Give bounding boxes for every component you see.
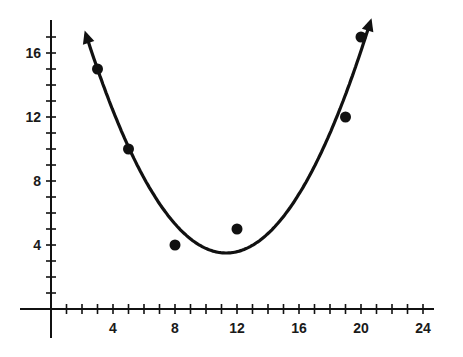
x-tick-label: 16 bbox=[291, 320, 307, 336]
data-point bbox=[232, 224, 243, 235]
y-tick-label: 8 bbox=[33, 173, 41, 189]
data-point bbox=[356, 32, 367, 43]
x-tick-label: 24 bbox=[415, 320, 431, 336]
data-point bbox=[92, 64, 103, 75]
data-point bbox=[340, 112, 351, 123]
tick-labels: 4812162024481216 bbox=[25, 45, 431, 336]
arrowhead-icon bbox=[362, 18, 373, 32]
curve-arrowheads bbox=[83, 18, 373, 44]
scatter-plot-with-quadratic-fit: 4812162024481216 bbox=[0, 0, 463, 357]
y-tick-label: 4 bbox=[33, 237, 41, 253]
x-tick-label: 4 bbox=[109, 320, 117, 336]
x-tick-label: 12 bbox=[229, 320, 245, 336]
data-point bbox=[170, 240, 181, 251]
y-tick-label: 12 bbox=[25, 109, 41, 125]
best-fit-curve bbox=[86, 25, 370, 254]
data-point bbox=[123, 144, 134, 155]
x-tick-label: 8 bbox=[171, 320, 179, 336]
x-tick-label: 20 bbox=[353, 320, 369, 336]
y-tick-label: 16 bbox=[25, 45, 41, 61]
arrowhead-icon bbox=[83, 30, 94, 44]
axes bbox=[20, 20, 434, 338]
